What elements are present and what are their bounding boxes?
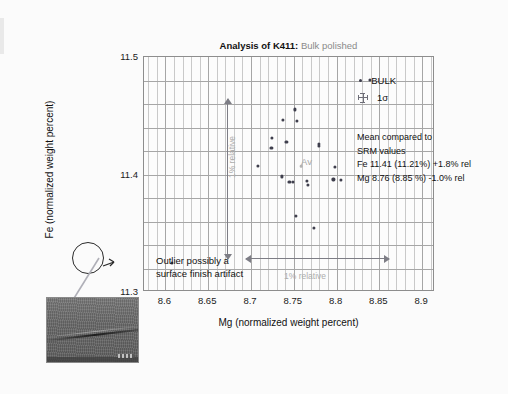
grid-line-vertical: [337, 57, 338, 290]
chart-title-sub: Bulk polished: [301, 40, 358, 51]
sem-scale-bar: [118, 354, 134, 358]
x-tick-label: 8.7: [243, 295, 256, 306]
mean-note-line-4: Mg 8.76 (8.85 %) -1.0% rel: [357, 172, 508, 186]
legend: BULK 1σ: [358, 72, 396, 106]
slide-canvas: Analysis of K411: Bulk polished Mg (norm…: [0, 0, 508, 394]
y-tick-label: 11.3: [107, 286, 138, 297]
x-tick-label: 8.85: [369, 295, 388, 306]
grid-line-horizontal: [144, 245, 433, 246]
vertical-relative-arrow-label: 1% relative: [227, 112, 237, 202]
grid-line-horizontal: [144, 222, 433, 223]
chart-title: Analysis of K411: Bulk polished: [143, 40, 434, 51]
mean-comparison-note: Mean compared to SRM values Fe 11.41 (11…: [357, 131, 508, 185]
arrow-head-right-icon: [384, 255, 390, 263]
x-axis-title: Mg (normalized weight percent): [143, 317, 434, 328]
legend-item-bulk: BULK: [358, 72, 396, 89]
chart-title-main: Analysis of K411:: [220, 40, 299, 51]
x-tick-label: 8.6: [158, 295, 171, 306]
grid-line-vertical: [319, 57, 320, 290]
x-tick-label: 8.65: [198, 295, 217, 306]
arrow-head-up-icon: [224, 98, 232, 104]
x-tick-label: 8.8: [329, 295, 342, 306]
error-cross-icon: [358, 93, 368, 103]
outlier-text-line-2: surface finish artifact: [156, 267, 286, 280]
x-tick-label: 8.75: [284, 295, 303, 306]
legend-label-sigma: 1σ: [377, 92, 388, 103]
outlier-text-line-1: Outlier possibly a: [156, 254, 286, 267]
grid-line-vertical: [328, 57, 329, 290]
legend-item-sigma: 1σ: [358, 89, 396, 106]
y-axis-title: Fe (normalized weight percent): [44, 75, 55, 265]
mean-note-line-2: SRM values: [357, 145, 508, 159]
horizontal-relative-arrow-label: 1% relative: [284, 271, 326, 281]
grid-line-vertical: [294, 57, 295, 290]
legend-label-bulk: BULK: [371, 75, 396, 86]
grid-line-vertical: [345, 57, 346, 290]
outlier-annotation-text: Outlier possibly a surface finish artifa…: [156, 254, 286, 280]
scan-edge-artifact: [0, 18, 4, 54]
grid-line-vertical: [354, 57, 355, 290]
grid-line-vertical: [311, 57, 312, 290]
grid-line-horizontal: [144, 198, 433, 199]
x-tick-label: 8.9: [415, 295, 428, 306]
sem-micrograph: [46, 297, 139, 363]
y-tick-label: 11.5: [107, 51, 138, 62]
mean-note-line-3: Fe 11.41 (11.21%) +1.8% rel: [357, 158, 508, 172]
dot-marker-icon: [359, 79, 362, 82]
figure-container: Analysis of K411: Bulk polished Mg (norm…: [14, 14, 494, 380]
mean-note-line-1: Mean compared to: [357, 131, 508, 145]
average-marker-label: Av: [301, 156, 312, 167]
grid-line-horizontal: [144, 128, 433, 129]
grid-line-vertical: [302, 57, 303, 290]
grid-line-vertical: [148, 57, 149, 290]
y-tick-label: 11.4: [107, 168, 138, 179]
